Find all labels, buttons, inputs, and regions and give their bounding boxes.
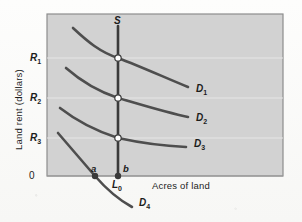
figure-canvas (0, 0, 302, 222)
point-label-b: b (123, 164, 129, 174)
origin-label: 0 (29, 171, 35, 181)
point-label-a: a (91, 164, 96, 174)
y-tick-label-r1: R1 (30, 53, 41, 65)
equilibrium-point-r2 (115, 95, 121, 101)
y-tick-label-r3: R3 (30, 133, 41, 145)
supply-curve-label: S (114, 16, 121, 26)
demand-label-d4: D4 (139, 198, 150, 210)
equilibrium-point-r1 (115, 55, 121, 61)
land-rent-figure: Land rent (dollars) Acres of land 0 S R1… (0, 0, 302, 222)
x-tick-label-l0: L0 (112, 180, 122, 192)
demand-label-d1: D1 (196, 84, 207, 96)
y-axis-title: Land rent (dollars) (14, 69, 24, 150)
x-axis-title: Acres of land (152, 181, 210, 191)
y-tick-label-r2: R2 (30, 93, 41, 105)
equilibrium-point-r3 (115, 135, 121, 141)
demand-label-d3: D3 (194, 139, 205, 151)
plot-area (47, 14, 283, 176)
demand-label-d2: D2 (196, 113, 207, 125)
